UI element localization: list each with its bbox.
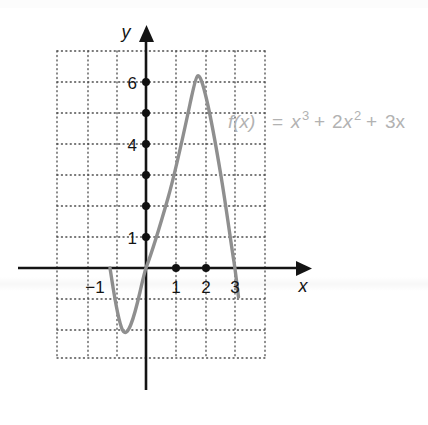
y-tick-label-6: 6	[128, 74, 137, 93]
coordinate-plane-svg: 6 4 1 −1 1 2 3 y x f(x) = x 3 + 2 x 2 + …	[0, 0, 428, 425]
x-axis-arrowhead	[296, 261, 312, 276]
equation-fx: f(x)	[228, 111, 255, 132]
y-axis-label: y	[120, 22, 132, 42]
equation-term2-coefficient: 2	[332, 111, 343, 132]
x-tick-label-1: 1	[171, 278, 180, 297]
x-tick-labels: −1 1 2 3	[85, 278, 239, 297]
point-y3	[142, 171, 150, 179]
y-tick-label-1: 1	[128, 229, 137, 248]
point-x2	[202, 264, 210, 272]
graph-figure: 6 4 1 −1 1 2 3 y x f(x) = x 3 + 2 x 2 + …	[0, 0, 428, 425]
point-y2	[142, 202, 150, 210]
equation-term2-base: x	[342, 111, 354, 132]
equation-term1-exponent: 3	[302, 108, 309, 123]
equation-equals: =	[272, 111, 283, 132]
x-axis-label: x	[298, 276, 309, 296]
point-x1	[172, 264, 180, 272]
equation-plus-2: +	[366, 111, 377, 132]
point-y1	[142, 233, 150, 241]
x-tick-label-2: 2	[201, 278, 210, 297]
y-tick-label-4: 4	[128, 136, 137, 155]
equation-term3: 3x	[385, 111, 406, 132]
x-tick-label-minus1: −1	[85, 278, 104, 297]
x-tick-label-3: 3	[230, 278, 239, 297]
y-tick-labels: 6 4 1	[128, 74, 137, 248]
axes	[18, 30, 296, 390]
equation-term2-exponent: 2	[354, 108, 361, 123]
grid-lines	[57, 51, 265, 358]
point-y4	[142, 140, 150, 148]
equation-plus-1: +	[314, 111, 325, 132]
equation-annotation: f(x) = x 3 + 2 x 2 + 3x	[228, 108, 406, 132]
equation-term1-base: x	[290, 111, 302, 132]
point-y6	[142, 78, 150, 86]
y-axis-arrowhead	[139, 25, 154, 42]
point-y5	[142, 109, 150, 117]
